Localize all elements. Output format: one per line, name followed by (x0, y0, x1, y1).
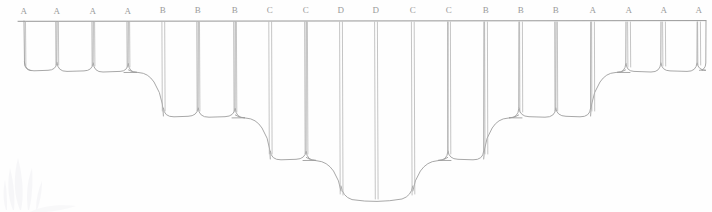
scallop-b1-left (163, 22, 198, 117)
transition-b-to-c-left (235, 115, 270, 159)
panel-label: C (303, 5, 309, 15)
scallop-d-centre (341, 186, 413, 201)
panel-seam (269, 22, 270, 154)
panel-label: A (90, 6, 97, 16)
panel-seam (414, 22, 415, 194)
panel-label: A (626, 5, 633, 15)
panel-label: B (483, 5, 489, 15)
panel-label: D (373, 5, 380, 15)
scallop-a2-right (661, 22, 697, 71)
scallop-c1-left (270, 22, 306, 160)
panel-seams (26, 22, 701, 199)
panel-label: B (553, 5, 559, 15)
scallop-a2-left (57, 22, 93, 71)
scallop-a3-left (93, 22, 128, 72)
panel-label: C (446, 5, 452, 15)
transition-a-to-b-right (591, 70, 626, 116)
panel-label: B (195, 5, 201, 15)
transition-d-to-c-right (413, 158, 448, 192)
scallop-c2-right (438, 22, 451, 161)
valance-diagram (0, 0, 712, 212)
panel-seam (307, 22, 308, 154)
drawing-sheet: A A A A B B B C C D D C C B B B A A A A (0, 0, 712, 212)
panel-label: A (21, 6, 28, 16)
scallop-c1-right (448, 22, 484, 160)
panel-seam (342, 22, 343, 195)
panel-label: A (125, 6, 132, 16)
scallop-a1-right (697, 63, 706, 70)
panel-label: D (338, 5, 345, 15)
scallop-a3-right (626, 22, 661, 72)
panel-label: B (160, 5, 166, 15)
transition-c-to-d-left (306, 158, 341, 192)
panel-seam (375, 22, 376, 199)
panel-label: C (267, 5, 273, 15)
panel-seam (305, 22, 306, 154)
panel-label: A (590, 5, 597, 15)
panel-label: B (518, 5, 524, 15)
transition-b-to-c-right (484, 115, 519, 159)
panel-label: B (232, 5, 238, 15)
panel-label: A (696, 5, 703, 15)
panel-label: C (410, 5, 416, 15)
scallop-b2-right (519, 22, 556, 117)
panel-seam (272, 22, 273, 154)
panel-label: A (661, 5, 668, 15)
panel-seam (377, 22, 378, 199)
diagram-strokes (18, 21, 706, 202)
scallop-b1-right (556, 22, 591, 117)
panel-label: A (54, 6, 61, 16)
scallop-b2-left (198, 22, 235, 117)
transition-a-to-b-left (129, 70, 164, 116)
panel-seam (340, 22, 341, 194)
panel-seam (411, 22, 412, 195)
scallop-a1-left (24, 22, 57, 71)
left-outer-edge (24, 21, 31, 71)
top-rail-line (18, 21, 706, 22)
